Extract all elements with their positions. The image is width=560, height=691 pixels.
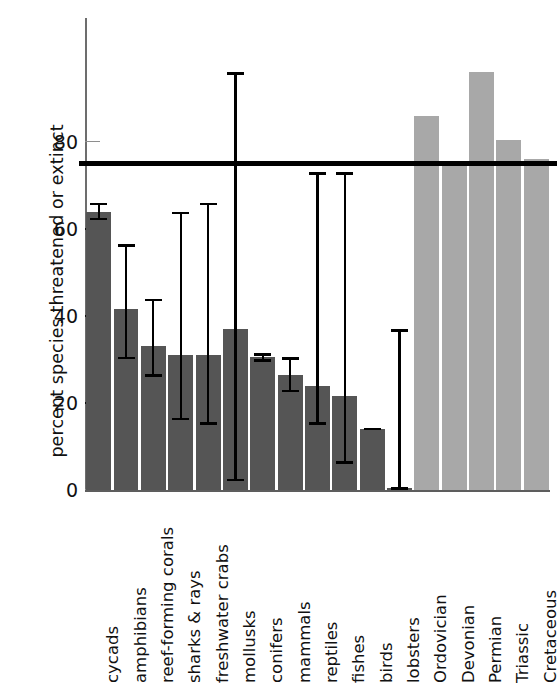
- x-label-devonian: Devonian: [461, 605, 478, 683]
- x-label-conifers: conifers: [269, 617, 286, 683]
- x-axis-line: [85, 490, 550, 492]
- error-bar-cap-upper: [254, 353, 271, 356]
- error-bar-cap-upper: [282, 357, 299, 360]
- bar-cycads: [86, 212, 111, 490]
- y-tick-mark: [85, 141, 100, 143]
- bar-conifers: [250, 357, 275, 490]
- error-bar-cap-lower: [118, 357, 135, 360]
- bar-birds: [360, 429, 385, 490]
- error-bar-cap-upper: [118, 244, 135, 247]
- error-bar-birds: [360, 428, 385, 431]
- error-bar-cap-lower: [254, 359, 271, 362]
- error-bar-cap-upper: [391, 329, 408, 332]
- error-bar-cap-upper: [336, 172, 353, 175]
- x-label-mammals: mammals: [297, 601, 314, 683]
- x-label-lobsters: lobsters: [406, 617, 423, 683]
- y-tick-label: 40: [54, 305, 78, 327]
- error-bar-stem: [125, 244, 127, 359]
- x-label-fishes: fishes: [351, 635, 368, 683]
- error-bar-cap-lower: [90, 218, 107, 221]
- bar-triassic: [496, 140, 521, 490]
- error-bar-stem: [180, 212, 182, 421]
- x-label-cretaceous: Cretaceous: [543, 590, 560, 683]
- error-bar-cap-lower: [282, 390, 299, 393]
- x-label-permian: Permian: [488, 616, 505, 683]
- error-bar-cap-lower: [364, 428, 381, 431]
- error-bar-cap-lower: [200, 422, 217, 425]
- error-bar-stem: [316, 172, 318, 424]
- y-tick-label: 60: [54, 218, 78, 240]
- x-label-freshwater-crabs: freshwater crabs: [215, 544, 232, 683]
- error-bar-cap-upper: [227, 72, 244, 75]
- x-label-mollusks: mollusks: [242, 610, 259, 683]
- error-bar-stem: [207, 203, 209, 425]
- error-bar-cap-lower: [172, 418, 189, 421]
- x-label-reptiles: reptiles: [324, 622, 341, 683]
- x-label-ordovician: Ordovician: [433, 594, 450, 683]
- error-bar-stem: [234, 72, 236, 481]
- error-bar-cap-upper: [172, 212, 189, 215]
- x-label-triassic: Triassic: [515, 623, 532, 683]
- error-bar-mammals: [278, 357, 303, 392]
- error-bar-mollusks: [223, 72, 248, 481]
- error-bar-cap-upper: [145, 299, 162, 302]
- bar-cretaceous: [524, 159, 549, 490]
- error-bar-cap-lower: [391, 487, 408, 490]
- bar-devonian: [442, 164, 467, 490]
- error-bar-cap-lower: [227, 479, 244, 482]
- error-bar-cap-upper: [200, 203, 217, 206]
- error-bar-cap-upper: [90, 203, 107, 206]
- bar-permian: [469, 72, 494, 490]
- error-bar-cycads: [86, 203, 111, 220]
- error-bar-stem: [289, 357, 291, 392]
- error-bar-cap-lower: [145, 374, 162, 377]
- x-label-cycads: cycads: [105, 626, 122, 683]
- error-bar-freshwater-crabs: [196, 203, 221, 425]
- x-label-amphibians: amphibians: [133, 587, 150, 683]
- error-bar-lobsters: [387, 329, 412, 490]
- y-tick-label: 80: [54, 131, 78, 153]
- y-tick-label: 20: [54, 392, 78, 414]
- mass-extinction-threshold-line: [79, 161, 557, 167]
- error-bar-reptiles: [305, 172, 330, 424]
- error-bar-stem: [152, 299, 154, 377]
- bar-ordovician: [414, 116, 439, 490]
- error-bar-sharks-rays: [168, 212, 193, 421]
- error-bar-fishes: [332, 172, 357, 463]
- error-bar-conifers: [250, 353, 275, 362]
- x-axis-labels: cycadsamphibiansreef-forming coralsshark…: [85, 497, 550, 687]
- error-bar-stem: [398, 329, 400, 490]
- error-bar-stem: [344, 172, 346, 463]
- error-bar-cap-upper: [309, 172, 326, 175]
- x-label-birds: birds: [379, 642, 396, 683]
- error-bar-cap-lower: [336, 461, 353, 464]
- x-label-sharks-rays: sharks & rays: [187, 570, 204, 683]
- error-bar-cap-lower: [309, 422, 326, 425]
- error-bar-reef-forming-corals: [141, 299, 166, 377]
- plot-area: 020406080: [85, 18, 550, 490]
- error-bar-amphibians: [114, 244, 139, 359]
- y-tick-label: 0: [66, 479, 78, 501]
- x-label-reef-forming-corals: reef-forming corals: [160, 527, 177, 683]
